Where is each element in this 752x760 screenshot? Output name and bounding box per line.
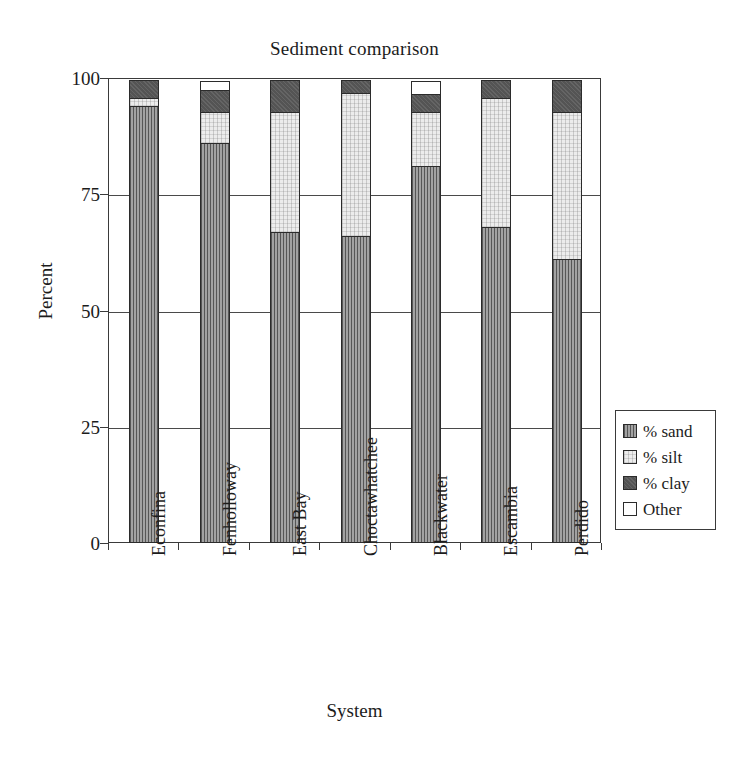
bar-segment	[481, 80, 511, 99]
x-axis-tick-label: Fenholloway	[221, 462, 239, 556]
bar-segment	[411, 81, 441, 95]
y-axis-tick-label: 25	[54, 418, 100, 437]
bar-segment	[129, 80, 159, 99]
bar-column	[481, 80, 511, 542]
bar-segment	[341, 93, 371, 237]
y-axis-tick-label: 100	[54, 69, 100, 88]
x-axis-tick-label: Blackwater	[432, 474, 450, 556]
chart-legend: % sand% silt% clayOther	[615, 410, 716, 530]
bar-segment	[411, 112, 441, 168]
bar-segment	[270, 112, 300, 233]
x-axis-tick-mark	[108, 543, 109, 550]
legend-label: Other	[643, 501, 682, 518]
x-axis-tick-label: East Bay	[291, 492, 309, 557]
bar-column	[411, 81, 441, 542]
y-axis-tick-label: 0	[54, 534, 100, 553]
x-axis-tick-mark	[601, 543, 602, 550]
sediment-comparison-chart: Sediment comparison Percent 0255075100 E…	[0, 0, 752, 760]
x-axis-tick-mark	[319, 543, 320, 550]
bar-segment	[481, 98, 511, 228]
y-axis-tick-label: 50	[54, 302, 100, 321]
chart-title: Sediment comparison	[108, 38, 601, 60]
legend-item: % silt	[623, 444, 709, 470]
bar-segment	[200, 90, 230, 113]
bar-segment	[270, 80, 300, 113]
legend-item: Other	[623, 496, 709, 522]
y-axis-tick-labels: 0255075100	[44, 78, 100, 543]
legend-label: % silt	[643, 449, 682, 466]
bar-segment	[411, 94, 441, 113]
other-swatch	[623, 502, 637, 516]
legend-item: % sand	[623, 418, 709, 444]
y-axis-tick-label: 75	[54, 185, 100, 204]
x-axis-title: System	[108, 700, 601, 722]
bar-column	[552, 80, 582, 542]
silt-swatch	[623, 450, 637, 464]
bar-segment	[200, 112, 230, 145]
bar-segment	[129, 106, 159, 543]
x-axis-tick-label: Escambia	[502, 486, 520, 556]
legend-item: % clay	[623, 470, 709, 496]
bar-segment	[552, 112, 582, 261]
x-axis-tick-label: Choctawhatchee	[362, 437, 380, 556]
y-axis-tick-mark	[100, 543, 108, 544]
y-axis-tick-mark	[100, 311, 108, 312]
plot-area	[108, 78, 601, 543]
legend-label: % sand	[643, 423, 693, 440]
clay-swatch	[623, 476, 637, 490]
x-axis-tick-mark	[460, 543, 461, 550]
bar-column	[129, 80, 159, 542]
bar-column	[270, 80, 300, 542]
bar-segment	[552, 80, 582, 113]
bar-segment	[341, 80, 371, 94]
x-axis-tick-label: Econfina	[150, 491, 168, 556]
x-axis-tick-mark	[249, 543, 250, 550]
y-axis-tick-mark	[100, 427, 108, 428]
x-axis-tick-label: Perdido	[573, 500, 591, 556]
y-axis-tick-mark	[100, 78, 108, 79]
y-axis-tick-mark	[100, 194, 108, 195]
x-axis-tick-mark	[531, 543, 532, 550]
legend-label: % clay	[643, 475, 690, 492]
x-axis-tick-mark	[390, 543, 391, 550]
sand-swatch	[623, 424, 637, 438]
x-axis-tick-mark	[178, 543, 179, 550]
